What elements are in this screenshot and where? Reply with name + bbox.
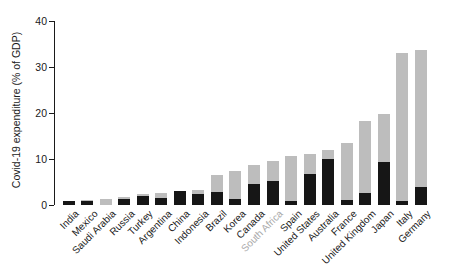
light-segment bbox=[229, 171, 241, 200]
bar-france bbox=[341, 143, 353, 205]
bar-japan bbox=[378, 114, 390, 205]
y-tick bbox=[49, 113, 54, 114]
y-tick bbox=[49, 205, 54, 206]
light-segment bbox=[100, 199, 112, 205]
light-segment bbox=[415, 50, 427, 188]
bar-brazil bbox=[211, 175, 223, 205]
light-segment bbox=[341, 143, 353, 200]
bar-italy bbox=[396, 53, 408, 205]
bar-mexico bbox=[81, 200, 93, 205]
y-tick-label: 30 bbox=[18, 61, 47, 73]
bar-canada bbox=[248, 165, 260, 205]
light-segment bbox=[378, 114, 390, 162]
light-segment bbox=[267, 161, 279, 181]
dark-segment bbox=[378, 162, 390, 205]
y-tick bbox=[49, 159, 54, 160]
dark-segment bbox=[81, 201, 93, 205]
covid-expenditure-chart: Covid-19 expenditure (% of GDP) 01020304… bbox=[0, 0, 450, 274]
light-segment bbox=[211, 175, 223, 192]
dark-segment bbox=[155, 198, 167, 205]
bar-argentina bbox=[155, 193, 167, 205]
bar-korea bbox=[229, 171, 241, 205]
bar-indonesia bbox=[192, 190, 204, 205]
bar-germany bbox=[415, 50, 427, 205]
light-segment bbox=[285, 156, 297, 201]
y-tick bbox=[49, 21, 54, 22]
dark-segment bbox=[248, 184, 260, 205]
y-tick bbox=[49, 67, 54, 68]
dark-segment bbox=[322, 159, 334, 205]
bar-saudi-arabia bbox=[100, 199, 112, 205]
bar-spain bbox=[285, 156, 297, 205]
dark-segment bbox=[137, 196, 149, 205]
y-tick-label: 20 bbox=[18, 107, 47, 119]
dark-segment bbox=[415, 187, 427, 205]
plot-area bbox=[55, 21, 447, 205]
bar-australia bbox=[322, 150, 334, 205]
light-segment bbox=[304, 154, 316, 173]
bar-india bbox=[63, 201, 75, 205]
bar-united-kingdom bbox=[359, 121, 371, 205]
dark-segment bbox=[63, 201, 75, 205]
dark-segment bbox=[396, 201, 408, 205]
dark-segment bbox=[304, 174, 316, 205]
bar-china bbox=[174, 191, 186, 205]
dark-segment bbox=[174, 191, 186, 205]
dark-segment bbox=[285, 201, 297, 205]
y-tick-label: 10 bbox=[18, 153, 47, 165]
y-tick-label: 40 bbox=[18, 15, 47, 27]
bar-south-africa bbox=[267, 161, 279, 205]
dark-segment bbox=[229, 199, 241, 205]
bar-united-states bbox=[304, 154, 316, 205]
light-segment bbox=[396, 53, 408, 201]
dark-segment bbox=[341, 200, 353, 205]
dark-segment bbox=[267, 181, 279, 205]
bar-russia bbox=[118, 197, 130, 205]
dark-segment bbox=[211, 192, 223, 205]
dark-segment bbox=[359, 193, 371, 205]
light-segment bbox=[359, 121, 371, 192]
light-segment bbox=[322, 150, 334, 159]
dark-segment bbox=[192, 194, 204, 206]
bar-turkey bbox=[137, 194, 149, 205]
dark-segment bbox=[118, 199, 130, 205]
y-tick-label: 0 bbox=[18, 199, 47, 211]
light-segment bbox=[248, 165, 260, 184]
